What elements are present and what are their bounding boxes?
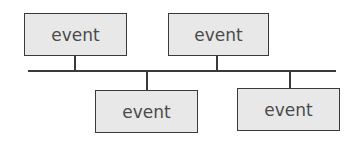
event-connector-3 [146,71,148,91]
event-connector-1 [74,55,76,71]
event-label: event [122,102,170,122]
event-label: event [51,25,99,45]
event-label: event [264,100,312,120]
event-connector-2 [216,55,218,71]
timeline-diagram: event event event event [0,0,351,143]
event-box-4: event [237,88,340,131]
event-label: event [194,25,242,45]
event-connector-4 [289,71,291,89]
event-box-2: event [168,13,269,56]
event-box-3: event [95,90,198,133]
event-box-1: event [24,13,127,56]
